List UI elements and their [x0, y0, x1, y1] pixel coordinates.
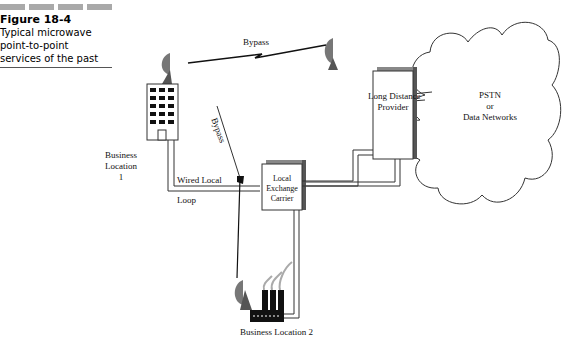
wired-local-label: Wired Local: [177, 175, 222, 186]
dish-icon: [162, 53, 170, 75]
long-distance-provider-box: [373, 71, 413, 159]
business-location-1-label: Business Location 1: [96, 150, 146, 183]
business-location-2-label: Business Location 2: [240, 327, 313, 338]
bypass-top-label: Bypass: [243, 37, 269, 48]
cloud-label: PSTN or Data Networks: [455, 90, 525, 123]
loop-label: Loop: [177, 195, 196, 206]
long-distance-provider-label: Long Distance Provider: [368, 91, 418, 113]
local-exchange-carrier-label: Local Exchange Carrier: [260, 174, 304, 204]
dish-icon: [235, 280, 243, 305]
long-distance-provider-box-shadow: [377, 67, 417, 71]
dish-icon: [325, 38, 333, 64]
factory-icon: [250, 262, 292, 322]
